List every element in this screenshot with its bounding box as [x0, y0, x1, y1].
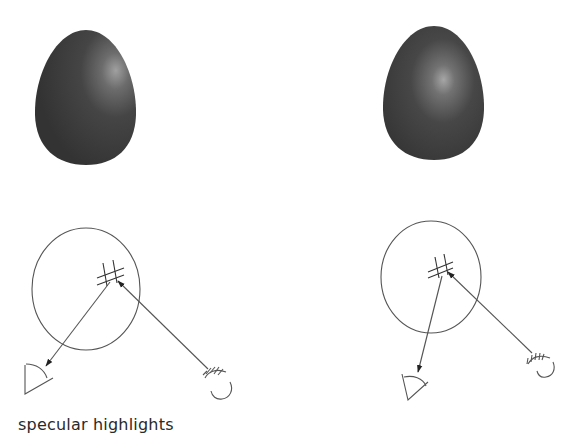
highlight-cross-icon — [428, 254, 453, 278]
egg-shape — [35, 30, 136, 165]
reflected-ray — [46, 282, 110, 366]
eye-icon — [402, 374, 428, 400]
eye-icon — [25, 364, 53, 394]
sphere-outline — [32, 228, 140, 350]
figure-caption: specular highlights — [18, 415, 174, 434]
specular-highlights-figure — [0, 0, 584, 445]
right-reflection-diagram — [381, 221, 554, 400]
light-source-icon — [203, 367, 232, 399]
left-egg — [35, 30, 136, 165]
light-source-icon — [527, 353, 554, 377]
incident-ray — [118, 281, 208, 369]
highlight-cross-icon — [97, 260, 124, 286]
reflected-ray — [418, 276, 442, 372]
right-egg — [383, 26, 484, 160]
left-reflection-diagram — [25, 228, 232, 399]
egg-shape — [383, 26, 484, 160]
incident-ray — [448, 272, 532, 353]
